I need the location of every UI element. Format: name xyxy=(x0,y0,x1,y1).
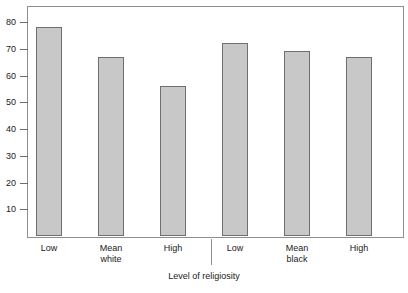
y-axis-tick-label: 50 xyxy=(0,98,16,107)
x-axis-label-text: Mean xyxy=(100,243,123,253)
bar-white-mean xyxy=(98,57,124,236)
bar-chart: 1020304050607080 LowMeanwhiteHighLowMean… xyxy=(0,0,408,293)
y-axis-tick-label: 20 xyxy=(0,179,16,188)
bar-white-high xyxy=(160,86,186,236)
group-divider-tick xyxy=(211,239,212,265)
x-axis-title: Level of religiosity xyxy=(0,271,408,282)
bar-black-mean xyxy=(284,51,310,236)
x-axis-label-white-high: High xyxy=(143,243,203,254)
x-axis-label-text: Mean xyxy=(286,243,309,253)
bar-white-low xyxy=(36,27,62,236)
x-axis-label-black-high: High xyxy=(329,243,389,254)
x-axis-label-black-mean: Meanblack xyxy=(267,243,327,265)
y-axis-tick-label: 30 xyxy=(0,152,16,161)
y-axis-tick-label: 70 xyxy=(0,45,16,54)
y-axis-tick-label: 60 xyxy=(0,72,16,81)
x-axis-label-black-low: Low xyxy=(205,243,265,254)
x-axis-label-text: High xyxy=(350,243,369,253)
x-axis-label-text: High xyxy=(164,243,183,253)
bars-layer xyxy=(27,6,404,238)
y-axis-tick-label: 10 xyxy=(0,205,16,214)
x-axis-group-label-white: white xyxy=(81,254,141,265)
bar-black-low xyxy=(222,43,248,236)
x-axis-label-white-low: Low xyxy=(19,243,79,254)
bar-black-high xyxy=(346,57,372,236)
x-axis-label-white-mean: Meanwhite xyxy=(81,243,141,265)
y-axis-tick-label: 40 xyxy=(0,125,16,134)
x-axis-label-text: Low xyxy=(227,243,244,253)
x-axis-label-text: Low xyxy=(41,243,58,253)
y-axis-tick-label: 80 xyxy=(0,18,16,27)
x-axis-group-label-black: black xyxy=(267,254,327,265)
